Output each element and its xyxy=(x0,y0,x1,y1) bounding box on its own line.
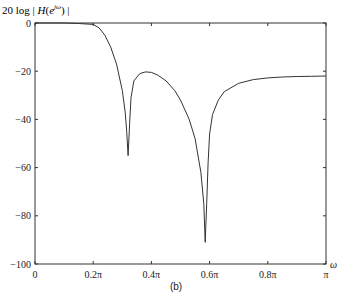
x-tick-label: 0.8π xyxy=(259,269,277,280)
y-tick-label: −60 xyxy=(15,162,31,173)
magnitude-curve xyxy=(35,23,326,242)
y-tick-label: 0 xyxy=(26,18,31,29)
x-tick-label: 0.2π xyxy=(84,269,102,280)
axis-ticks xyxy=(35,23,326,264)
x-axis-label: ω xyxy=(330,259,337,270)
x-tick-label: π xyxy=(323,269,328,280)
y-axis-title: 20 log | H(ejω) | xyxy=(2,3,70,17)
y-tick-label: −100 xyxy=(10,259,31,270)
y-tick-label: −40 xyxy=(15,114,31,125)
magnitude-response-chart: 20 log | H(ejω) | 0−20−40−60−80−100 00.2… xyxy=(0,0,338,295)
y-tick-labels: 0−20−40−60−80−100 xyxy=(10,18,31,270)
figure-caption: (b) xyxy=(170,281,182,292)
y-tick-label: −80 xyxy=(15,210,31,221)
plot-frame xyxy=(35,23,326,264)
x-tick-labels: 00.2π0.4π0.6π0.8ππ xyxy=(33,269,329,280)
x-tick-label: 0.4π xyxy=(143,269,161,280)
y-tick-label: −20 xyxy=(15,66,31,77)
x-tick-label: 0 xyxy=(33,269,38,280)
x-tick-label: 0.6π xyxy=(201,269,219,280)
